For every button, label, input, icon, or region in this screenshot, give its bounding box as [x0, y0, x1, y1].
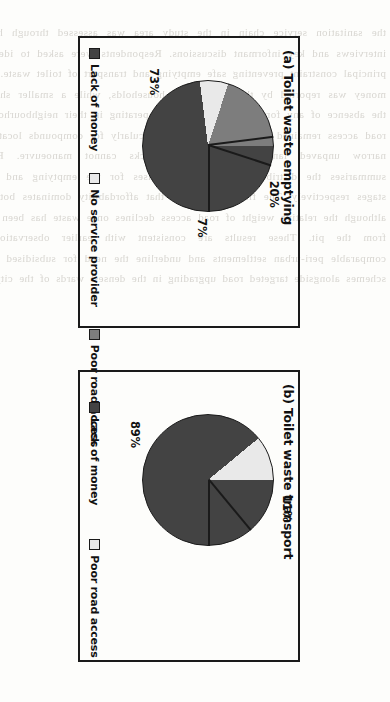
legend-label-lack-of-money: Lack of money: [88, 64, 101, 151]
panel-a-rotated-stage: (a) Toilet waste emptying 73% 7% 20% Lac…: [80, 38, 298, 326]
legend-label-lack-of-money-b: Lack of money: [88, 418, 101, 505]
panel-a-pie-chart: 73% 7% 20%: [142, 80, 274, 212]
legend-item-lack-of-money-b: Lack of money: [88, 402, 101, 505]
legend-swatch-poor-road-access: [89, 329, 100, 340]
legend-swatch-lack-of-money: [89, 48, 100, 59]
legend-label-poor-road-access-b: Poor road access: [88, 555, 101, 657]
panel-b-pie-chart: 89% 11%: [142, 414, 274, 546]
pie-a-label-lack-of-money: 73%: [147, 68, 161, 95]
pie-b-label-lack-of-money: 89%: [128, 421, 142, 448]
figure-panel-a: (a) Toilet waste emptying 73% 7% 20% Lac…: [78, 36, 300, 328]
pie-slice-divider: [208, 146, 210, 212]
pie-a-label-no-service-provider: 7%: [195, 218, 209, 237]
legend-item-lack-of-money: Lack of money: [88, 48, 101, 151]
pie-b-label-poor-road-access: 11%: [280, 495, 294, 522]
panel-a-title: (a) Toilet waste emptying: [281, 38, 296, 326]
panel-b-legend: Lack of money Poor road access: [88, 402, 101, 658]
pie-slice-divider: [208, 480, 210, 546]
pie-a-label-poor-road-access: 20%: [267, 181, 281, 208]
legend-swatch-lack-of-money-b: [89, 402, 100, 413]
legend-label-no-service-provider: No service provider: [88, 189, 101, 307]
legend-swatch-poor-road-access-b: [89, 539, 100, 550]
legend-item-no-service-provider: No service provider: [88, 173, 101, 307]
panel-b-rotated-stage: (b) Toilet waste transport 89% 11% Lack …: [80, 372, 298, 660]
figure-panel-b: (b) Toilet waste transport 89% 11% Lack …: [78, 370, 300, 662]
legend-swatch-no-service-provider: [89, 173, 100, 184]
legend-item-poor-road-access-b: Poor road access: [88, 539, 101, 657]
